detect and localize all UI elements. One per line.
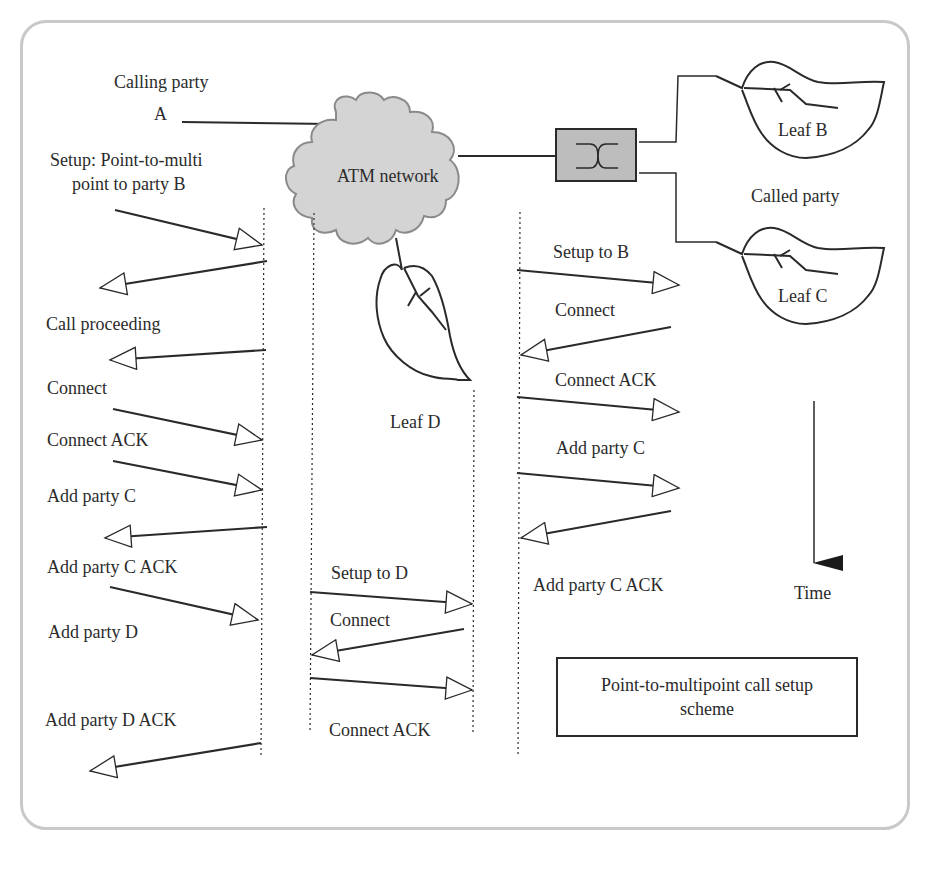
msg-setup-p2mp-line1: Setup: Point-to-multi	[50, 150, 203, 170]
switch-icon	[556, 129, 636, 181]
scheme-title-line2: scheme	[558, 697, 856, 721]
msg-connect-ack-left: Connect ACK	[47, 430, 149, 450]
scheme-title-box: Point-to-multipoint call setup scheme	[556, 657, 858, 737]
leaf-d-label: Leaf D	[390, 412, 440, 432]
msg-add-party-c-left: Add party C	[47, 486, 136, 506]
called-party-label: Called party	[751, 186, 839, 206]
leaf-b-icon	[716, 62, 884, 158]
time-axis-label: Time	[794, 583, 831, 603]
msg-connect-ack-right: Connect ACK	[555, 370, 657, 390]
msg-connect-left: Connect	[47, 378, 107, 398]
msg-setup-to-b: Setup to B	[553, 242, 629, 262]
msg-setup-p2mp-line2: point to party B	[72, 174, 186, 194]
leaf-c-icon	[716, 228, 884, 324]
lifeline-network-right	[518, 212, 520, 757]
msg-add-party-c-ack-right: Add party C ACK	[533, 575, 664, 595]
msg-add-party-d-ack: Add party D ACK	[45, 710, 177, 730]
switch-to-leaf-c-link	[639, 173, 716, 242]
switch-to-leaf-b-link	[639, 76, 716, 142]
msg-call-proceeding: Call proceeding	[46, 314, 160, 334]
leaf-c-label: Leaf C	[778, 286, 827, 306]
msg-add-party-c-ack-left: Add party C ACK	[47, 557, 178, 577]
middle-message-arrows	[310, 592, 472, 690]
leaf-d-icon	[377, 238, 470, 380]
calling-party-id: A	[154, 104, 167, 124]
lifeline-leaf-d	[473, 390, 474, 733]
msg-connect-middle: Connect	[330, 610, 390, 630]
msg-connect-ack-middle: Connect ACK	[329, 720, 431, 740]
calling-party-link	[182, 122, 330, 124]
calling-party-label: Calling party	[114, 72, 208, 92]
msg-connect-right: Connect	[555, 300, 615, 320]
msg-add-party-d: Add party D	[48, 622, 138, 642]
atm-network-label: ATM network	[337, 166, 439, 186]
msg-add-party-c-right: Add party C	[556, 438, 645, 458]
msg-setup-to-d: Setup to D	[331, 563, 408, 583]
lifeline-calling-party	[261, 208, 264, 757]
leaf-b-label: Leaf B	[778, 120, 827, 140]
scheme-title-line1: Point-to-multipoint call setup	[558, 673, 856, 697]
